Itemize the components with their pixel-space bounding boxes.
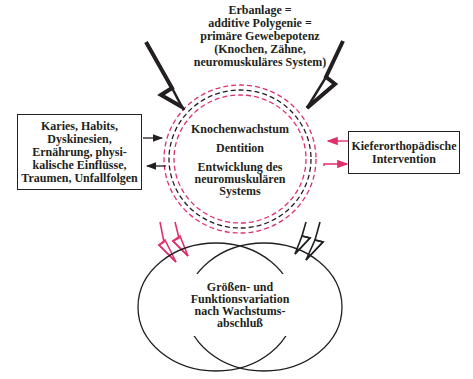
- center-item-systems: Systems: [180, 185, 300, 197]
- left-box-line: Traumen, Unfallfolgen: [21, 172, 137, 185]
- left-box-line: Karies, Habits,: [21, 120, 137, 133]
- center-circle-text: Knochenwachstum Dentition Entwicklung de…: [180, 123, 300, 197]
- intervention-box: Kieferorthopädische Intervention: [348, 131, 460, 174]
- top-label-erbanlage: Erbanlage = additive Polygenie = primäre…: [185, 4, 335, 69]
- top-label-line: neuromuskuläres System): [185, 56, 335, 69]
- left-factors-box: Karies, Habits, Dyskinesien, Ernährung, …: [17, 114, 142, 190]
- right-box-line: Intervention: [351, 153, 456, 166]
- double-lightning-bolt-pink-icon: [159, 222, 188, 262]
- center-item-dentition: Dentition: [180, 142, 300, 154]
- bottom-text-line: abschluß: [180, 317, 300, 329]
- lightning-bolt-top-left-icon: [146, 42, 184, 110]
- left-box-line: kalische Einflüsse,: [21, 159, 137, 172]
- left-box-line: Dyskinesien,: [21, 133, 137, 146]
- left-box-line: Ernährung, physi-: [21, 146, 137, 159]
- bottom-circle-text: Größen- und Funktionsvariation nach Wach…: [180, 281, 300, 329]
- arrow-intervention-out: [324, 164, 347, 166]
- center-item-knochenwachstum: Knochenwachstum: [180, 123, 300, 135]
- right-box-line: Kieferorthopädische: [351, 140, 456, 153]
